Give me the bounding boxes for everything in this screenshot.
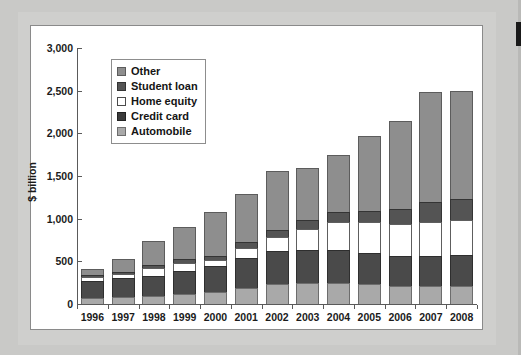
x-axis-tick [231, 305, 232, 309]
bar-segment-home-equity[interactable] [266, 237, 289, 252]
bar-segment-other[interactable] [389, 121, 412, 209]
bar-stack[interactable] [235, 194, 258, 304]
bar-segment-credit-card[interactable] [112, 278, 135, 297]
x-axis-tick [200, 305, 201, 309]
bar-segment-other[interactable] [235, 194, 258, 243]
bar-segment-credit-card[interactable] [450, 255, 473, 286]
bar-segment-credit-card[interactable] [204, 266, 227, 292]
y-axis-tick-label: 1,500 [29, 171, 73, 182]
bar-segment-student-loan[interactable] [389, 209, 412, 224]
bar-segment-home-equity[interactable] [358, 222, 381, 254]
bar-segment-other[interactable] [142, 241, 165, 264]
bar-segment-home-equity[interactable] [327, 222, 350, 251]
legend-item[interactable]: Automobile [117, 124, 198, 139]
bar-segment-student-loan[interactable] [450, 199, 473, 220]
bar-segment-other[interactable] [419, 92, 442, 202]
bar-segment-credit-card[interactable] [142, 276, 165, 296]
bar-segment-home-equity[interactable] [450, 220, 473, 255]
bar-segment-credit-card[interactable] [235, 258, 258, 288]
bar-segment-automobile[interactable] [327, 283, 350, 304]
bar-segment-credit-card[interactable] [81, 281, 104, 298]
bar-segment-home-equity[interactable] [296, 229, 319, 250]
x-axis-tick [139, 305, 140, 309]
x-axis-tick [77, 305, 78, 309]
bar-segment-credit-card[interactable] [419, 256, 442, 286]
y-axis-title: $ billion [26, 162, 38, 202]
bar-segment-other[interactable] [450, 91, 473, 199]
bar-stack[interactable] [358, 136, 381, 304]
x-axis-tick [108, 305, 109, 309]
y-axis-tick-label: 2,500 [29, 85, 73, 96]
bar-segment-automobile[interactable] [173, 294, 196, 304]
bar-segment-student-loan[interactable] [419, 202, 442, 222]
x-axis-label: 2008 [442, 312, 482, 323]
bar-segment-credit-card[interactable] [327, 250, 350, 283]
bar-stack[interactable] [389, 121, 412, 304]
x-axis-tick [292, 305, 293, 309]
bar-segment-other[interactable] [327, 155, 350, 212]
x-axis-line [77, 304, 477, 305]
bar-segment-other[interactable] [204, 212, 227, 256]
bar-segment-automobile[interactable] [204, 292, 227, 304]
bar-segment-other[interactable] [112, 259, 135, 272]
bar-segment-credit-card[interactable] [266, 251, 289, 284]
bar-segment-other[interactable] [296, 168, 319, 220]
x-axis-tick [477, 305, 478, 309]
bar-stack[interactable] [327, 155, 350, 304]
bar-stack[interactable] [81, 269, 104, 304]
bar-segment-automobile[interactable] [296, 283, 319, 304]
bar-segment-automobile[interactable] [266, 284, 289, 304]
bar-segment-student-loan[interactable] [327, 212, 350, 221]
bar-segment-automobile[interactable] [419, 286, 442, 304]
bar-segment-home-equity[interactable] [173, 263, 196, 271]
bar-stack[interactable] [142, 241, 165, 304]
y-axis-tick-label: 0 [29, 299, 73, 310]
bar-segment-credit-card[interactable] [296, 250, 319, 283]
credit-card-swatch [117, 112, 126, 121]
bar-segment-credit-card[interactable] [389, 256, 412, 286]
legend-item-label: Credit card [131, 111, 189, 122]
x-axis-tick [169, 305, 170, 309]
bar-segment-other[interactable] [266, 171, 289, 230]
automobile-swatch [117, 127, 126, 136]
bar-segment-automobile[interactable] [358, 284, 381, 304]
bar-segment-home-equity[interactable] [142, 268, 165, 277]
legend-item[interactable]: Credit card [117, 109, 198, 124]
bar-segment-automobile[interactable] [112, 297, 135, 304]
page-background: $ billion 3,0002,5002,0001,5001,0005000 … [0, 0, 521, 355]
y-axis-tick-label: 3,000 [29, 43, 73, 54]
bar-stack[interactable] [450, 91, 473, 304]
bar-segment-home-equity[interactable] [419, 222, 442, 256]
bar-segment-home-equity[interactable] [235, 248, 258, 258]
bar-segment-other[interactable] [173, 227, 196, 259]
chart-legend: OtherStudent loanHome equityCredit cardA… [111, 59, 206, 144]
bar-segment-automobile[interactable] [389, 286, 412, 304]
y-axis-tick-label: 2,000 [29, 128, 73, 139]
bar-stack[interactable] [112, 259, 135, 304]
y-axis-tick-label: 500 [29, 256, 73, 267]
y-axis-tick-label: 1,000 [29, 213, 73, 224]
bar-segment-credit-card[interactable] [173, 271, 196, 294]
bar-stack[interactable] [204, 212, 227, 304]
bar-stack[interactable] [296, 168, 319, 304]
legend-item[interactable]: Other [117, 64, 198, 79]
bar-segment-student-loan[interactable] [358, 211, 381, 222]
bar-segment-automobile[interactable] [81, 298, 104, 304]
other-swatch [117, 67, 126, 76]
x-axis-tick [354, 305, 355, 309]
legend-item[interactable]: Student loan [117, 79, 198, 94]
bar-segment-automobile[interactable] [235, 288, 258, 304]
bar-segment-credit-card[interactable] [358, 253, 381, 284]
bar-stack[interactable] [266, 171, 289, 304]
chart-panel: $ billion 3,0002,5002,0001,5001,0005000 … [30, 25, 483, 330]
legend-item-label: Home equity [131, 96, 197, 107]
bar-segment-automobile[interactable] [142, 296, 165, 304]
x-axis-tick [385, 305, 386, 309]
bar-stack[interactable] [419, 92, 442, 304]
bar-segment-home-equity[interactable] [389, 224, 412, 256]
bar-segment-other[interactable] [358, 136, 381, 211]
legend-item[interactable]: Home equity [117, 94, 198, 109]
bar-segment-automobile[interactable] [450, 286, 473, 304]
bar-segment-student-loan[interactable] [296, 220, 319, 229]
bar-stack[interactable] [173, 227, 196, 304]
